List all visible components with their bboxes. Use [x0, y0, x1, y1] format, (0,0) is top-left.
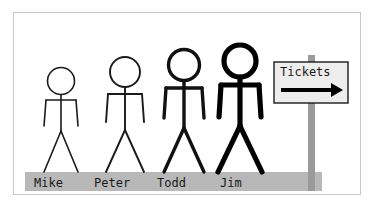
- stick-figure-jim: [218, 45, 262, 172]
- figure-leg-left: [164, 128, 184, 172]
- figure-head: [169, 50, 200, 81]
- stick-figure-peter: [106, 57, 144, 172]
- figure-arm-left: [106, 94, 108, 122]
- figure-leg-right: [184, 128, 204, 172]
- figure-head: [224, 45, 256, 77]
- figure-leg-left: [218, 126, 240, 172]
- illustration-canvas: Mike Peter Todd Jim Tickets: [0, 0, 376, 208]
- figure-head: [110, 57, 140, 87]
- figure-head: [48, 68, 75, 95]
- figure-label-jim: Jim: [220, 177, 242, 189]
- stick-figure-mike: [44, 68, 78, 173]
- figure-leg-left: [44, 131, 61, 172]
- figure-arm-right: [142, 94, 144, 122]
- figure-arm-right: [259, 85, 261, 117]
- figure-leg-left: [106, 130, 125, 172]
- figure-arm-left: [164, 88, 166, 118]
- figure-arm-left: [44, 100, 46, 126]
- figure-label-mike: Mike: [34, 177, 63, 189]
- figure-arm-left: [219, 85, 221, 117]
- figures-group: [44, 45, 262, 172]
- figure-leg-right: [125, 130, 144, 172]
- figure-leg-right: [61, 131, 78, 172]
- sign-label-tickets: Tickets: [280, 66, 331, 78]
- figure-leg-right: [240, 126, 262, 172]
- figure-label-peter: Peter: [94, 177, 130, 189]
- figure-arm-right: [76, 100, 78, 126]
- figure-arm-right: [202, 88, 204, 118]
- figure-label-todd: Todd: [157, 177, 186, 189]
- stick-figure-todd: [164, 50, 204, 173]
